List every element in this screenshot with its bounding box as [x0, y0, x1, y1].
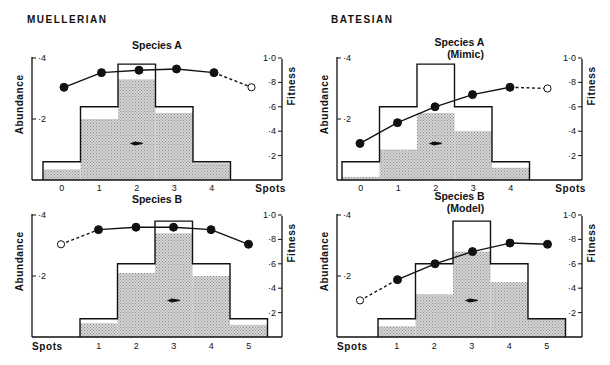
shaded-bar [118, 79, 156, 180]
chart-title: Species B [132, 193, 183, 205]
fitness-point-open [248, 84, 255, 91]
fitness-point [394, 119, 402, 127]
right-tick-label: 1·0 [563, 210, 576, 220]
right-tick-label: ·4 [568, 126, 576, 136]
spots-axis-label: Spots [555, 183, 586, 194]
chart-title: Species A [132, 39, 182, 51]
fitness-point [506, 83, 514, 91]
x-tick-label: 4 [508, 183, 513, 193]
right-tick-label: ·8 [568, 77, 576, 87]
shaded-bar [492, 168, 530, 180]
fitness-axis-label: Fitness [586, 66, 597, 105]
right-tick-label: ·4 [568, 283, 576, 293]
fitness-point [60, 83, 68, 91]
fitness-point [431, 260, 439, 268]
fitness-point [469, 248, 477, 256]
abundance-axis-label: Abundance [14, 231, 25, 291]
mimicry-charts: Species A·4·21·0·8·6·4·2AbundanceFitness… [0, 0, 610, 365]
right-tick-label: ·8 [268, 77, 276, 87]
abundance-axis-label: Abundance [319, 231, 330, 291]
fitness-line [177, 69, 215, 73]
shaded-bar [378, 326, 416, 337]
fitness-point [170, 223, 178, 231]
fitness-line [473, 87, 511, 94]
shaded-bar [416, 294, 454, 337]
x-tick-label: 4 [507, 341, 512, 351]
chart-subtitle: (Model) [447, 202, 484, 214]
fitness-point-open [57, 241, 64, 248]
fitness-axis-label: Fitness [286, 66, 297, 105]
chart-panel-mullerian-a: Species A·4·21·0·8·6·4·2AbundanceFitness… [14, 39, 297, 194]
fitness-point [469, 91, 477, 99]
right-tick-label: ·2 [268, 308, 276, 318]
shaded-bar [118, 273, 156, 337]
fitness-line [398, 264, 436, 280]
spots-axis-label: Spots [255, 183, 286, 194]
fitness-point [356, 139, 364, 147]
shaded-bar [380, 150, 418, 181]
shaded-bar [193, 276, 231, 337]
fitness-point [506, 239, 514, 247]
right-tick-label: ·4 [268, 283, 276, 293]
shaded-bar [80, 323, 118, 337]
fitness-axis-label: Fitness [286, 223, 297, 262]
right-tick-label: ·8 [268, 234, 276, 244]
x-tick-label: 0 [59, 183, 64, 193]
fitness-point [210, 69, 218, 77]
fitness-point [135, 66, 143, 74]
x-tick-label: 1 [396, 183, 401, 193]
spots-axis-label: Spots [32, 341, 63, 352]
fitness-point [394, 276, 402, 284]
chart-title: Species B [434, 190, 485, 202]
x-tick-label: 5 [246, 341, 251, 351]
fitness-point [132, 223, 140, 231]
fitness-line [510, 243, 548, 244]
fitness-line [64, 73, 102, 88]
fitness-line [211, 230, 249, 245]
shaded-bar [43, 169, 81, 180]
fitness-point-open [544, 85, 551, 92]
fitness-point [544, 240, 552, 248]
fitness-point [245, 240, 253, 248]
chart-panel-batesian-a: Species A(Mimic)·4·21·0·8·6·4·2Abundance… [319, 36, 597, 194]
shaded-bar [81, 119, 119, 180]
x-tick-label: 1 [96, 341, 101, 351]
fitness-point [173, 65, 181, 73]
right-tick-label: 1·0 [563, 53, 576, 63]
x-tick-label: 2 [432, 341, 437, 351]
right-tick-label: ·4 [268, 126, 276, 136]
right-tick-label: 1·0 [263, 53, 276, 63]
x-tick-label: 4 [209, 183, 214, 193]
shaded-bar [155, 233, 193, 337]
fitness-line [473, 243, 511, 252]
left-tick-label: ·2 [38, 271, 46, 281]
x-tick-label: 1 [97, 183, 102, 193]
abundance-axis-label: Abundance [319, 74, 330, 134]
x-tick-label: 4 [209, 341, 214, 351]
right-tick-label: ·2 [568, 151, 576, 161]
right-tick-label: ·6 [568, 259, 576, 269]
right-tick-label: ·6 [568, 102, 576, 112]
left-tick-label: ·2 [343, 114, 351, 124]
shaded-bar [453, 252, 491, 337]
x-tick-label: 2 [134, 183, 139, 193]
x-tick-label: 0 [358, 183, 363, 193]
left-tick-label: ·4 [343, 53, 351, 63]
fitness-line [99, 227, 137, 229]
fitness-line [139, 69, 177, 70]
abundance-axis-label: Abundance [14, 74, 25, 134]
right-tick-label: ·6 [268, 102, 276, 112]
shaded-bar [230, 325, 268, 337]
fitness-line [435, 95, 473, 107]
chart-panel-mullerian-b: Species B·4·21·0·8·6·4·2AbundanceFitness… [14, 193, 297, 352]
right-tick-label: ·6 [268, 259, 276, 269]
shaded-bar [156, 113, 194, 180]
shaded-bar [528, 319, 566, 337]
chart-title: Species A [435, 36, 485, 48]
fitness-line-dashed [214, 73, 252, 88]
left-tick-label: ·2 [343, 271, 351, 281]
x-tick-label: 5 [544, 341, 549, 351]
fitness-axis-label: Fitness [586, 223, 597, 262]
fitness-line-dashed [510, 87, 548, 88]
fitness-point [207, 226, 215, 234]
